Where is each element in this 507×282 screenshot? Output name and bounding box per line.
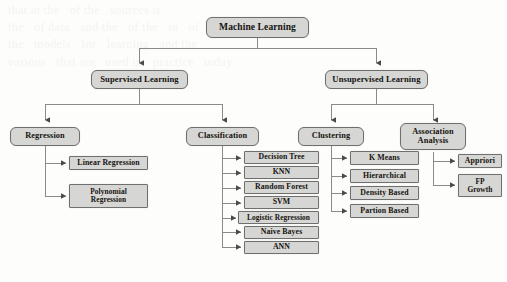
node-naive-bayes[interactable]: Naive Bayes [244, 226, 319, 239]
node-svm[interactable]: SVM [244, 196, 319, 209]
node-label: Clustering [312, 132, 350, 141]
node-density-based[interactable]: Density Based [350, 186, 419, 200]
node-label-line2: Growth [467, 186, 492, 194]
node-knn[interactable]: KNN [244, 166, 319, 179]
node-label: Decision Tree [258, 153, 304, 161]
node-linear-regression[interactable]: Linear Regression [69, 156, 148, 170]
node-label: Supervised Learning [100, 75, 179, 84]
node-classification[interactable]: Classification [186, 127, 259, 146]
node-label: Hierarchical [363, 172, 406, 180]
node-association-analysis[interactable]: Association Analysis [400, 123, 466, 150]
node-label-line2: Regression [91, 196, 126, 204]
node-label: K Means [369, 154, 400, 162]
node-label: Unsupervised Learning [332, 75, 420, 84]
node-fp-growth[interactable]: FP Growth [458, 174, 502, 197]
node-clustering[interactable]: Clustering [298, 127, 364, 146]
node-machine-learning[interactable]: Machine Learning [206, 17, 309, 38]
node-label: Machine Learning [219, 23, 296, 33]
node-label: Regression [25, 132, 65, 141]
node-label: Partion Based [360, 207, 408, 215]
node-label: SVM [273, 198, 291, 206]
node-label: Classification [198, 132, 247, 141]
node-label: Random Forest [255, 183, 308, 191]
node-label-line2: Analysis [418, 137, 449, 146]
node-k-means[interactable]: K Means [350, 151, 419, 165]
node-decision-tree[interactable]: Decision Tree [244, 151, 319, 164]
diagram-canvas: that at the of the sources is the of dat… [0, 0, 507, 282]
node-logistic-regression[interactable]: Logistic Regression [238, 211, 319, 224]
node-label: Naive Bayes [261, 228, 303, 236]
node-ann[interactable]: ANN [244, 241, 319, 254]
node-regression[interactable]: Regression [10, 127, 80, 146]
node-label: ANN [273, 243, 290, 251]
node-label: Linear Regression [77, 159, 139, 167]
node-polynomial-regression[interactable]: Polynomial Regression [69, 184, 148, 208]
node-unsupervised-learning[interactable]: Unsupervised Learning [325, 70, 428, 89]
node-label: Logistic Regression [247, 214, 310, 222]
node-hierarchical[interactable]: Hierarchical [350, 169, 419, 183]
node-random-forest[interactable]: Random Forest [244, 181, 319, 194]
node-appriori[interactable]: Appriori [458, 154, 502, 168]
node-label: KNN [273, 168, 291, 176]
node-supervised-learning[interactable]: Supervised Learning [91, 70, 188, 89]
node-label: Density Based [360, 189, 408, 197]
node-partion-based[interactable]: Partion Based [350, 204, 419, 218]
node-label: Appriori [465, 157, 495, 165]
